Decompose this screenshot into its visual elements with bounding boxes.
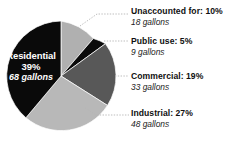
callout-industrial-volume: 48 gallons xyxy=(131,119,193,130)
callout-public-use: Public use: 5% 9 gallons xyxy=(131,36,192,58)
pie-chart-graphic: Residential 39% 68 gallons xyxy=(0,0,130,145)
callout-industrial: Industrial: 27% 48 gallons xyxy=(131,108,193,130)
callout-commercial-title: Commercial: 19% xyxy=(131,71,203,82)
callout-public-use-volume: 9 gallons xyxy=(131,47,192,58)
callout-unaccounted-for: Unaccounted for: 10% 18 gallons xyxy=(131,6,223,28)
pie-chart-figure: Residential 39% 68 gallons Unaccounted f… xyxy=(0,0,229,145)
callout-unaccounted-for-volume: 18 gallons xyxy=(131,17,223,28)
callout-commercial: Commercial: 19% 33 gallons xyxy=(131,71,203,93)
pie-svg xyxy=(0,0,130,145)
callout-commercial-volume: 33 gallons xyxy=(131,82,203,93)
callout-industrial-title: Industrial: 27% xyxy=(131,108,193,119)
callout-unaccounted-for-title: Unaccounted for: 10% xyxy=(131,6,223,17)
callout-public-use-title: Public use: 5% xyxy=(131,36,192,47)
